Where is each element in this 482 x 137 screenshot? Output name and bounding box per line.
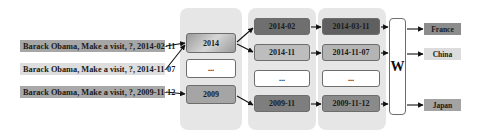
connection-arrows: [0, 0, 482, 137]
